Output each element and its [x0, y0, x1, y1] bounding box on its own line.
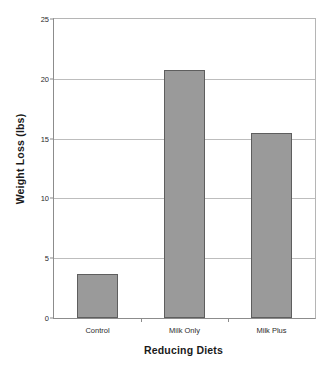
y-axis-tick-mark — [50, 318, 54, 319]
plot-area: 0510152025 ControlMilk OnlyMilk Plus — [53, 18, 316, 319]
y-axis-tick-label: 20 — [41, 74, 49, 83]
y-axis-title: Weight Loss (lbs) — [10, 0, 30, 317]
x-axis-tick-mark — [228, 318, 229, 322]
x-axis-tick-label: Milk Only — [169, 326, 200, 335]
x-axis-tick-label: Control — [85, 326, 109, 335]
x-axis-tick-label: Milk Plus — [256, 326, 286, 335]
bar — [77, 274, 118, 318]
y-axis-title-text: Weight Loss (lbs) — [14, 113, 26, 204]
y-axis-tick-label: 15 — [41, 134, 49, 143]
y-axis-tick-mark — [50, 138, 54, 139]
y-axis-tick-mark — [50, 19, 54, 20]
y-axis-tick-mark — [50, 78, 54, 79]
y-axis-tick-mark — [50, 198, 54, 199]
y-axis-tick-label: 5 — [45, 254, 49, 263]
bar — [251, 133, 292, 318]
y-axis-tick-mark — [50, 258, 54, 259]
bar-chart: Weight Loss (lbs) 0510152025 ControlMilk… — [0, 0, 335, 369]
y-axis-tick-label: 0 — [45, 314, 49, 323]
y-axis-tick-label: 10 — [41, 194, 49, 203]
y-axis-tick-label: 25 — [41, 15, 49, 24]
x-axis-title: Reducing Diets — [53, 344, 314, 356]
x-axis-tick-mark — [141, 318, 142, 322]
bar — [164, 70, 205, 318]
